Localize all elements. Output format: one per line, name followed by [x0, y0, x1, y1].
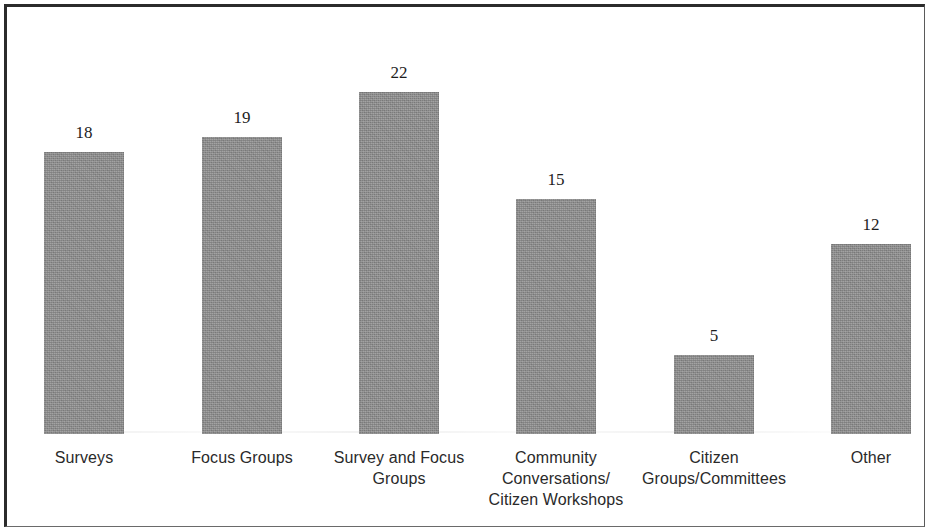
- bar-chart-figure: 18 Surveys 19 Focus Groups 22 Survey and…: [0, 0, 937, 531]
- value-label-other: 12: [831, 216, 911, 233]
- plot-area: 18 Surveys 19 Focus Groups 22 Survey and…: [7, 7, 928, 530]
- bar-surveys: [44, 152, 124, 434]
- bar-citizen-groups-committees: [674, 355, 754, 434]
- category-label-line: Community: [515, 449, 597, 466]
- baseline: [37, 431, 897, 433]
- chart-frame-border: 18 Surveys 19 Focus Groups 22 Survey and…: [4, 4, 925, 527]
- category-label-other: Other: [791, 447, 937, 468]
- value-label-survey-and-focus-groups: 22: [359, 64, 439, 81]
- category-label-survey-and-focus-groups: Survey and Focus Groups: [319, 447, 479, 489]
- category-label-line: Groups: [372, 470, 425, 487]
- bar-community-conversations: [516, 199, 596, 434]
- category-label-line: Survey and Focus: [334, 449, 465, 466]
- category-label-line: Citizen Workshops: [489, 491, 624, 508]
- bar-other: [831, 244, 911, 434]
- bar-survey-and-focus-groups: [359, 92, 439, 434]
- category-label-line: Surveys: [55, 449, 114, 466]
- category-label-community-conversations: Community Conversations/ Citizen Worksho…: [476, 447, 636, 510]
- category-label-line: Groups/Committees: [642, 470, 786, 487]
- category-label-line: Conversations/: [502, 470, 610, 487]
- category-label-line: Focus Groups: [191, 449, 293, 466]
- value-label-citizen-groups-committees: 5: [674, 327, 754, 344]
- value-label-community-conversations: 15: [516, 171, 596, 188]
- category-label-line: Other: [851, 449, 892, 466]
- category-label-citizen-groups-committees: Citizen Groups/Committees: [626, 447, 802, 489]
- bar-focus-groups: [202, 137, 282, 434]
- category-label-surveys: Surveys: [4, 447, 164, 468]
- category-label-line: Citizen: [689, 449, 739, 466]
- value-label-focus-groups: 19: [202, 109, 282, 126]
- value-label-surveys: 18: [44, 124, 124, 141]
- category-label-focus-groups: Focus Groups: [162, 447, 322, 468]
